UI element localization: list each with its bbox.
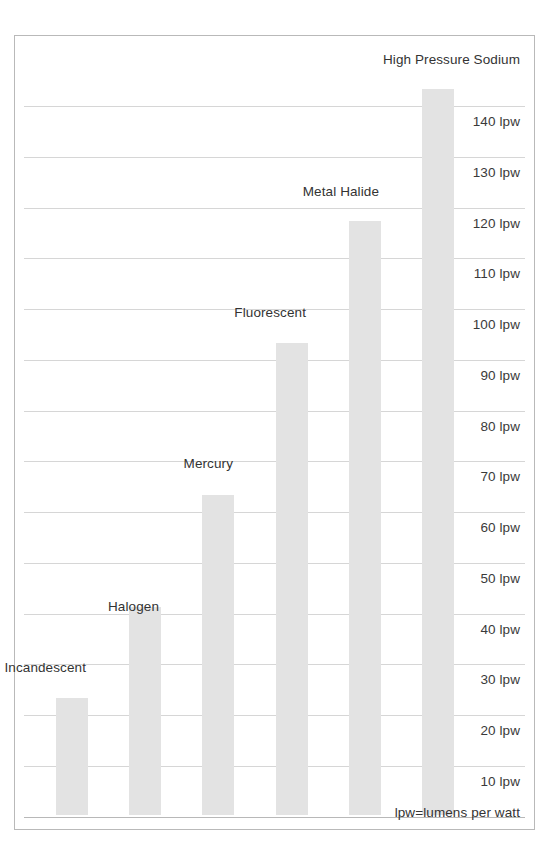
tick-label-130: 130 lpw	[473, 166, 520, 180]
tick-label-60: 60 lpw	[480, 521, 520, 535]
chart-footnote: lpw=lumens per watt	[395, 805, 520, 820]
tick-label-140: 140 lpw	[473, 115, 520, 129]
tick-label-70: 70 lpw	[480, 470, 520, 484]
tick-label-30: 30 lpw	[480, 673, 520, 687]
bar-fluorescent	[276, 343, 308, 815]
bar-label-fluorescent: Fluorescent	[234, 306, 306, 320]
tick-label-10: 10 lpw	[480, 775, 520, 789]
bar-label-halogen: Halogen	[108, 600, 159, 614]
bar-metal-halide	[349, 221, 381, 815]
bar-halogen	[129, 607, 161, 815]
tick-label-100: 100 lpw	[473, 318, 520, 332]
tick-label-90: 90 lpw	[480, 369, 520, 383]
bar-incandescent	[56, 698, 88, 815]
bar-high-pressure-sodium	[422, 89, 454, 815]
tick-label-80: 80 lpw	[480, 420, 520, 434]
tick-label-120: 120 lpw	[473, 217, 520, 231]
tick-label-20: 20 lpw	[480, 724, 520, 738]
tick-label-50: 50 lpw	[480, 572, 520, 586]
chart-frame: 140 lpw 130 lpw 120 lpw 110 lpw 100 lpw …	[14, 35, 535, 830]
plot-area: 140 lpw 130 lpw 120 lpw 110 lpw 100 lpw …	[15, 36, 534, 829]
tick-label-110: 110 lpw	[474, 267, 520, 281]
bar-mercury	[202, 495, 234, 815]
tick-label-40: 40 lpw	[480, 623, 520, 637]
bar-label-mercury: Mercury	[184, 457, 233, 471]
bar-label-incandescent: Incandescent	[4, 661, 86, 675]
bar-label-high-pressure-sodium: High Pressure Sodium	[383, 53, 520, 67]
bar-label-metal-halide: Metal Halide	[303, 185, 379, 199]
